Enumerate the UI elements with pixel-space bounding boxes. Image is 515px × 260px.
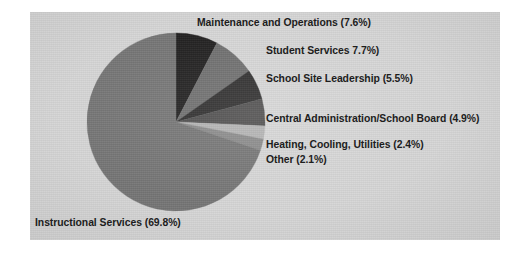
pie-label-central-administration-school-board: Central Administration/School Board (4.9… bbox=[266, 113, 479, 125]
pie-chart-graphic bbox=[30, 12, 500, 240]
pie-slice-group bbox=[87, 33, 265, 211]
pie-label-student-services: Student Services 7.7%) bbox=[266, 45, 379, 57]
pie-label-school-site-leadership: School Site Leadership (5.5%) bbox=[266, 73, 413, 85]
pie-chart-panel: Maintenance and Operations (7.6%) Studen… bbox=[30, 12, 500, 240]
pie-label-other: Other (2.1%) bbox=[266, 154, 327, 166]
pie-label-instructional-services: Instructional Services (69.8%) bbox=[35, 217, 181, 229]
pie-label-maintenance-and-operations: Maintenance and Operations (7.6%) bbox=[197, 17, 371, 29]
pie-label-heating-cooling-utilities: Heating, Cooling, Utilities (2.4%) bbox=[266, 139, 424, 151]
